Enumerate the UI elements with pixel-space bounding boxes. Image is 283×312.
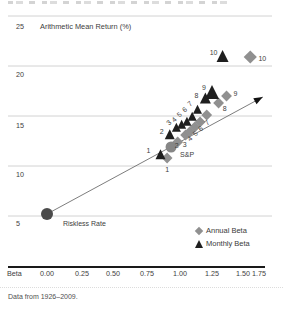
legend-annual-label: Annual Beta xyxy=(206,226,247,235)
point-label: 9 xyxy=(202,84,206,91)
monthly-beta-triangle-icon xyxy=(192,240,206,248)
point-label: 5 xyxy=(191,130,199,138)
point-label: 6 xyxy=(197,125,205,133)
scatter-plot: 25 20 15 10 5 Arithmetic Mean Return (%)… xyxy=(0,0,283,312)
annual-beta-point xyxy=(201,110,212,121)
y-tick-5: 5 xyxy=(16,219,20,228)
point-label: 1 xyxy=(147,147,151,154)
point-label: S&P xyxy=(180,151,194,158)
point-label: 6 xyxy=(181,106,189,114)
x-tick-150: 1.50 xyxy=(236,269,250,278)
x-tick-025: 0.25 xyxy=(75,269,89,278)
x-axis-bar xyxy=(8,266,265,268)
x-tick-175: 1.75 xyxy=(252,269,266,278)
annual-beta-point xyxy=(221,91,232,102)
point-label: 10 xyxy=(210,49,218,56)
x-tick-000: 0.00 xyxy=(40,269,54,278)
point-label: 3 xyxy=(183,141,187,148)
y-tick-10: 10 xyxy=(16,170,24,179)
riskless-rate-point xyxy=(41,208,53,220)
point-label: 1 xyxy=(165,166,169,173)
legend: Annual Beta Monthly Beta xyxy=(192,224,250,250)
point-label: 8 xyxy=(223,105,227,112)
point-label: 8 xyxy=(194,92,198,99)
x-tick-050: 0.50 xyxy=(106,269,120,278)
monthly-beta-point xyxy=(205,85,219,99)
y-tick-20: 20 xyxy=(16,70,24,79)
y-axis-title: Arithmetic Mean Return (%) xyxy=(40,22,131,31)
monthly-beta-point xyxy=(217,50,229,62)
legend-row-monthly: Monthly Beta xyxy=(192,237,250,250)
arrowhead-icon xyxy=(253,94,264,104)
legend-row-annual: Annual Beta xyxy=(192,224,250,237)
x-tick-100: 1.00 xyxy=(173,269,187,278)
annual-beta-point xyxy=(244,50,257,63)
point-label: 2 xyxy=(175,142,179,149)
point-label: 4 xyxy=(186,135,194,143)
x-axis-label: Beta xyxy=(7,269,22,278)
legend-monthly-label: Monthly Beta xyxy=(206,239,250,248)
y-tick-15: 15 xyxy=(16,121,24,130)
plot-dynamic-layer: 1234567891012345678910S&PRiskless Rate xyxy=(41,49,266,227)
annual-beta-diamond-icon xyxy=(192,228,206,234)
point-label: 9 xyxy=(234,90,238,97)
data-source-footnote: Data from 1926–2009. xyxy=(8,293,78,300)
y-tick-25: 25 xyxy=(16,22,24,31)
monthly-beta-point xyxy=(193,105,202,114)
point-label: 5 xyxy=(175,111,183,119)
point-label: 2 xyxy=(160,128,164,135)
footer-divider xyxy=(0,287,283,288)
x-tick-075: 0.75 xyxy=(140,269,154,278)
point-label: 10 xyxy=(258,55,266,62)
security-market-line xyxy=(47,97,263,214)
point-label: 4 xyxy=(170,116,178,124)
point-label: 7 xyxy=(186,100,194,108)
x-tick-125: 1.25 xyxy=(205,269,219,278)
point-label: Riskless Rate xyxy=(63,220,106,227)
beta-return-scatter-figure: 25 20 15 10 5 Arithmetic Mean Return (%)… xyxy=(0,0,283,312)
